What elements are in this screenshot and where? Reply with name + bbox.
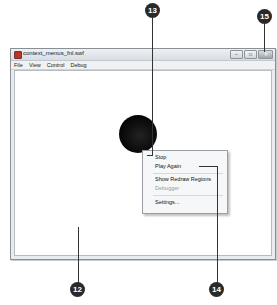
callout-13-leader bbox=[147, 155, 153, 156]
flash-app-icon bbox=[14, 51, 22, 59]
callout-14-leader bbox=[217, 166, 218, 288]
menu-control[interactable]: Control bbox=[47, 61, 65, 69]
window-controls: – □ ✕ bbox=[230, 50, 273, 59]
callout-14: 14 bbox=[209, 282, 224, 297]
context-menu-show-redraw-regions[interactable]: Show Redraw Regions bbox=[155, 176, 211, 182]
context-menu-separator bbox=[153, 195, 223, 196]
menu-bar: File View Control Debug bbox=[11, 61, 275, 70]
callout-15-leader bbox=[264, 24, 265, 52]
swf-stage[interactable]: Stop Play Again Show Redraw Regions Debu… bbox=[14, 70, 272, 256]
close-button[interactable]: ✕ bbox=[258, 50, 273, 59]
context-menu: Stop Play Again Show Redraw Regions Debu… bbox=[142, 150, 228, 214]
context-menu-debugger: Debugger bbox=[155, 185, 179, 191]
minimize-button[interactable]: – bbox=[230, 50, 243, 59]
title-bar[interactable]: context_menus_fnl.swf – □ ✕ bbox=[11, 49, 275, 61]
callout-13-leader bbox=[152, 18, 153, 156]
flash-player-window: context_menus_fnl.swf – □ ✕ File View Co… bbox=[10, 48, 276, 260]
callout-14-leader bbox=[199, 166, 217, 167]
callout-12-leader bbox=[78, 227, 79, 289]
callout-13: 13 bbox=[145, 3, 160, 18]
window-title: context_menus_fnl.swf bbox=[23, 50, 84, 56]
menu-file[interactable]: File bbox=[14, 61, 23, 69]
context-menu-play-again[interactable]: Play Again bbox=[155, 163, 181, 169]
context-menu-separator bbox=[153, 173, 223, 174]
menu-debug[interactable]: Debug bbox=[70, 61, 86, 69]
context-menu-stop[interactable]: Stop bbox=[155, 154, 166, 160]
maximize-button[interactable]: □ bbox=[244, 50, 257, 59]
context-menu-settings[interactable]: Settings... bbox=[155, 199, 179, 205]
callout-12: 12 bbox=[70, 282, 85, 297]
menu-view[interactable]: View bbox=[29, 61, 41, 69]
callout-15: 15 bbox=[257, 9, 272, 24]
